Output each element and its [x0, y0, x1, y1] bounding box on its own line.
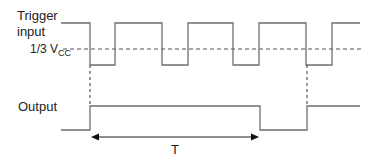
output-waveform [61, 106, 360, 130]
timing-diagram: Trigger input 1/3 VCC Output T [0, 0, 375, 157]
trigger-input-label-line2: input [17, 24, 46, 39]
period-arrow-right-head-icon [251, 134, 259, 141]
trigger-waveform [61, 23, 360, 65]
trigger-input-label: Trigger [17, 8, 58, 23]
output-label: Output [18, 99, 57, 114]
period-label: T [171, 142, 179, 157]
threshold-label-prefix: 1/3 V [30, 42, 58, 56]
threshold-label: 1/3 VCC [30, 42, 72, 58]
period-arrow-left-head-icon [91, 134, 99, 141]
